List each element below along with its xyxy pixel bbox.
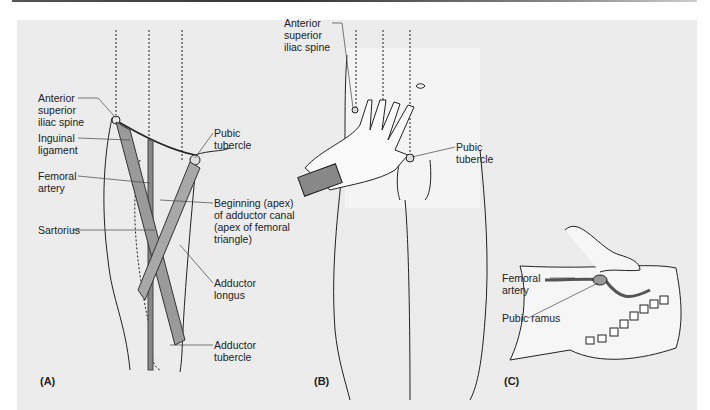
pubic-tubercle-marker-b: [406, 154, 414, 162]
label-anterior-superior-iliac-spine-a: Anterior superior iliac spine: [38, 92, 84, 128]
panel-label-c: (C): [504, 375, 519, 387]
label-femoral-artery-c: Femoral artery: [502, 272, 541, 296]
panel-label-a: (A): [40, 375, 55, 387]
label-adductor-canal-apex: Beginning (apex) of adductor canal (apex…: [214, 197, 295, 245]
leg-divide: [405, 200, 410, 400]
panel-a-drawing: [104, 30, 230, 372]
anatomy-illustration: [0, 0, 710, 410]
label-pubic-tubercle-b: Pubic tubercle: [456, 141, 493, 165]
label-inguinal-ligament: Inguinal ligament: [38, 132, 78, 156]
label-sartorius: Sartorius: [38, 224, 80, 236]
label-pubic-tubercle-a: Pubic tubercle: [214, 127, 251, 151]
panel-label-b: (B): [314, 375, 329, 387]
label-femoral-artery-a: Femoral artery: [38, 170, 77, 194]
label-adductor-longus: Adductor longus: [214, 277, 256, 301]
label-pubic-ramus: Pubic ramus: [502, 312, 560, 324]
panel-b-drawing: [298, 30, 487, 400]
label-anterior-superior-iliac-spine-b: Anterior superior iliac spine: [284, 17, 330, 53]
palpating-hand: [565, 226, 640, 272]
label-adductor-tubercle: Adductor tubercle: [214, 339, 256, 363]
pubic-ramus-c: [593, 275, 607, 285]
